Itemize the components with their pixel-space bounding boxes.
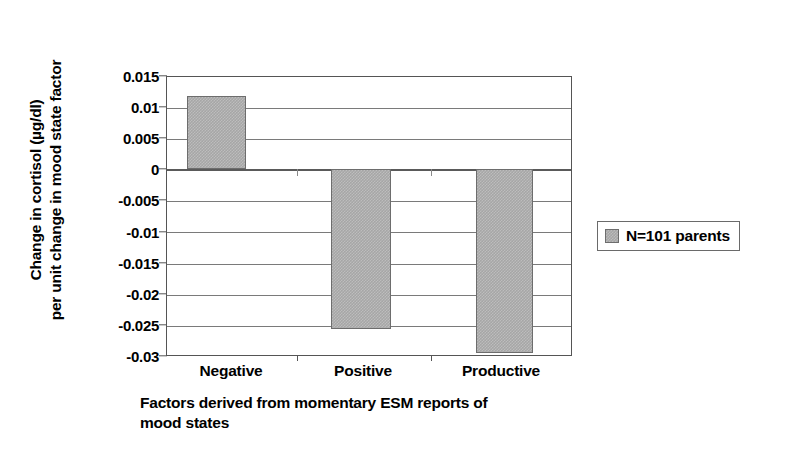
plot-area [166,76,572,356]
y-tick-label: -0.025 [80,318,166,333]
x-axis-tick [297,77,298,355]
y-tick-label: 0.01 [80,100,166,115]
y-tick-label: -0.01 [80,225,166,240]
legend-label: N=101 parents [626,227,730,245]
x-axis-inner-tick [297,169,298,176]
x-axis-title-line-2: mood states [140,413,610,433]
bar-productive[interactable] [476,169,533,353]
y-axis-title-line-2: per unit change in mood state factor [46,60,66,321]
y-tick-label: -0.03 [80,349,166,364]
y-tick-label: 0.015 [80,69,166,84]
x-axis-tick [431,77,432,355]
y-tick-label: -0.005 [80,193,166,208]
chart-legend: N=101 parents [597,221,740,251]
x-label-productive: Productive [430,362,572,380]
y-tick-label: -0.02 [80,287,166,302]
x-label-positive: Positive [296,362,430,380]
x-axis-title-line-1: Factors derived from momentary ESM repor… [140,393,610,413]
y-axis-title-line-1: Change in cortisol (µg/dl) [26,60,46,321]
y-axis-tick-labels: 0.015 0.01 0.005 0 -0.005 -0.01 -0.015 -… [80,0,166,451]
y-tick-label: 0.005 [80,131,166,146]
y-tick-label: -0.015 [80,256,166,271]
x-axis-inner-tick [431,169,432,176]
legend-swatch-icon [605,229,619,243]
bar-chart-figure: Change in cortisol (µg/dl) per unit chan… [0,0,789,451]
y-tick-label: 0 [80,162,166,177]
x-label-negative: Negative [166,362,296,380]
bar-negative[interactable] [187,96,246,169]
y-axis-title: Change in cortisol (µg/dl) per unit chan… [14,0,78,380]
x-axis-title: Factors derived from momentary ESM repor… [140,393,610,433]
bar-positive[interactable] [331,169,391,329]
